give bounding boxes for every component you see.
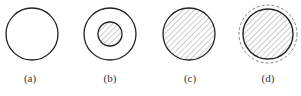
panel-b-label: (b) xyxy=(90,72,130,84)
panel-c-label: (c) xyxy=(170,72,210,84)
panel-c-hatched-circle xyxy=(163,8,215,60)
panel-b-inner-hatched-circle xyxy=(98,22,122,46)
panel-b-circles xyxy=(84,8,136,60)
panel-a-label: (a) xyxy=(10,72,50,84)
panel-d-circles xyxy=(239,5,297,63)
panel-d-label: (d) xyxy=(248,72,288,84)
panel-a-circle xyxy=(6,8,58,60)
